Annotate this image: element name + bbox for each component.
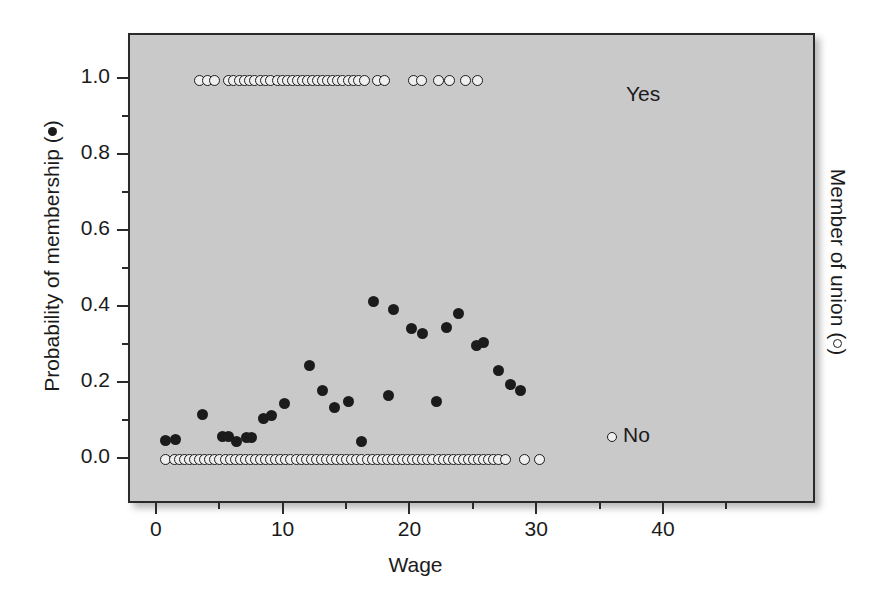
y-tick-major [117, 77, 128, 79]
y-tick-minor [122, 191, 128, 193]
y-tick-minor [122, 419, 128, 421]
plot-panel [128, 33, 815, 503]
data-point-probability [406, 323, 417, 334]
data-point-probability [478, 337, 489, 348]
x-axis-title: Wage [0, 553, 891, 577]
data-point-union-yes [379, 75, 390, 86]
x-axis-title-text: Wage [388, 553, 442, 577]
x-tick-major [155, 503, 157, 514]
figure-canvas: 0102030400.00.20.40.60.81.0 Wage Probabi… [0, 0, 891, 613]
x-tick-major [535, 503, 537, 514]
data-point-union-yes [433, 75, 444, 86]
secondary-y-axis-title-suffix: ) [827, 348, 850, 355]
x-tick-label: 40 [633, 517, 693, 541]
data-point-probability [356, 436, 367, 447]
filled-circle-icon [48, 127, 57, 136]
data-point-probability [317, 385, 328, 396]
y-tick-major [117, 229, 128, 231]
open-circle-icon [833, 339, 842, 348]
data-point-probability [343, 396, 354, 407]
y-axis-title: Probability of membership () [40, 56, 64, 456]
x-tick-label: 0 [126, 517, 186, 541]
y-tick-minor [122, 267, 128, 269]
x-tick-major [662, 503, 664, 514]
data-point-union-yes [209, 75, 220, 86]
y-axis-title-prefix: Probability of membership ( [40, 136, 63, 392]
x-tick-minor [725, 503, 727, 509]
data-point-probability [417, 328, 428, 339]
x-tick-label: 20 [379, 517, 439, 541]
y-tick-major [117, 153, 128, 155]
data-point-probability [453, 308, 464, 319]
annotation-no-open-circle-icon [607, 432, 617, 442]
data-point-union-no [534, 454, 545, 465]
data-point-probability [304, 360, 315, 371]
y-tick-minor [122, 343, 128, 345]
data-point-probability [329, 402, 340, 413]
data-point-probability [266, 410, 277, 421]
x-tick-minor [345, 503, 347, 509]
data-point-union-no [500, 454, 511, 465]
data-point-probability [170, 434, 181, 445]
data-point-probability [441, 322, 452, 333]
x-tick-minor [218, 503, 220, 509]
data-point-union-yes [444, 75, 455, 86]
secondary-y-axis-title: Member of union () [826, 62, 850, 462]
plot-data-area [130, 35, 813, 501]
data-point-union-no [519, 454, 530, 465]
x-tick-minor [472, 503, 474, 509]
data-point-probability [431, 396, 442, 407]
y-tick-minor [122, 115, 128, 117]
x-tick-label: 30 [506, 517, 566, 541]
data-point-union-yes [472, 75, 483, 86]
data-point-probability [383, 390, 394, 401]
secondary-y-axis-title-prefix: Member of union ( [827, 169, 850, 339]
data-point-union-yes [460, 75, 471, 86]
data-point-probability [368, 296, 379, 307]
annotation-no: No [623, 423, 650, 447]
y-axis-title-suffix: ) [40, 120, 63, 127]
y-tick-major [117, 305, 128, 307]
annotation-yes: Yes [626, 82, 660, 106]
data-point-union-yes [416, 75, 427, 86]
data-point-probability [515, 385, 526, 396]
data-point-probability [493, 365, 504, 376]
data-point-probability [246, 432, 257, 443]
data-point-probability [279, 398, 290, 409]
x-tick-minor [599, 503, 601, 509]
x-tick-major [408, 503, 410, 514]
y-tick-major [117, 381, 128, 383]
y-tick-major [117, 457, 128, 459]
data-point-probability [388, 304, 399, 315]
data-point-union-yes [359, 75, 370, 86]
x-tick-label: 10 [253, 517, 313, 541]
data-point-probability [197, 409, 208, 420]
x-tick-major [282, 503, 284, 514]
